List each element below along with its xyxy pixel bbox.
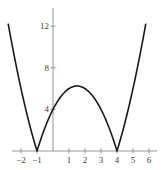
x-tick-label: −2	[16, 155, 26, 165]
graph-svg: −2−11234564812	[0, 0, 163, 170]
function-graph: −2−11234564812	[0, 0, 163, 170]
x-tick-label: −1	[32, 155, 42, 165]
x-tick-label: 5	[131, 155, 136, 165]
x-tick-label: 2	[83, 155, 88, 165]
y-tick-label: 12	[40, 21, 49, 31]
x-tick-label: 3	[99, 155, 104, 165]
x-tick-label: 4	[115, 155, 120, 165]
y-tick-label: 8	[45, 63, 50, 73]
curve-abs-quadratic	[8, 24, 146, 151]
x-tick-label: 6	[147, 155, 152, 165]
x-tick-label: 1	[67, 155, 72, 165]
y-tick-label: 4	[45, 104, 50, 114]
